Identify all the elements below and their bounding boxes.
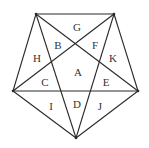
diagonal-top_left-right (36, 14, 138, 91)
vertex-right (137, 90, 140, 93)
region-label-k: K (109, 52, 117, 64)
vertex-top_right (113, 13, 116, 16)
region-label-h: H (33, 52, 41, 64)
region-label-a: A (74, 66, 82, 78)
pentagon-edge-bottom-left (13, 91, 76, 138)
region-label-g: G (73, 21, 81, 33)
region-label-c: C (41, 76, 48, 88)
pentagon-edge-top_right-right (114, 14, 138, 91)
region-label-i: I (49, 100, 53, 112)
vertex-left (12, 90, 15, 93)
diagonal-top_right-left (13, 14, 114, 91)
vertex-bottom (75, 137, 78, 140)
region-label-f: F (92, 39, 98, 51)
pentagon-star-diagram: GBFHKACEIDJ (0, 0, 149, 148)
pentagon-edge-right-bottom (76, 91, 138, 138)
region-label-j: J (98, 100, 103, 112)
region-label-d: D (73, 98, 81, 110)
region-label-e: E (103, 76, 110, 88)
vertex-top_left (35, 13, 38, 16)
region-label-b: B (54, 39, 61, 51)
